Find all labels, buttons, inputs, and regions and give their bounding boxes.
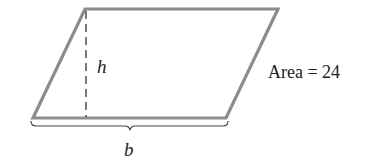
base-label: b [124,139,134,159]
parallelogram-diagram: h b Area = 24 [0,0,370,159]
height-label: h [97,56,107,77]
parallelogram-outline [33,9,278,118]
area-label: Area = 24 [268,62,340,82]
base-brace [31,121,228,130]
